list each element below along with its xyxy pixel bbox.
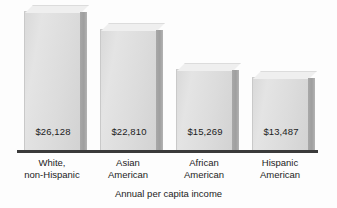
bar-value-label: $22,810 — [101, 126, 157, 137]
category-label-asian-american: Asian American — [85, 157, 171, 180]
category-label-line2: non-Hispanic — [9, 169, 95, 181]
bar-chart: $26,128 $22,810 $15,269 $13,487 — [0, 0, 337, 208]
category-label-african-american: African American — [161, 157, 247, 180]
bar-side-face — [156, 30, 163, 152]
x-axis-category-labels: White, non-Hispanic Asian American Afric… — [0, 157, 337, 185]
x-axis-title: Annual per capita income — [0, 188, 337, 199]
bar-front-face: $26,128 — [24, 11, 81, 152]
bar-value-label: $15,269 — [177, 126, 233, 137]
bar-front-face: $22,810 — [100, 29, 157, 152]
bar-side-face — [232, 70, 239, 152]
bar-side-face — [80, 12, 87, 152]
bar-front-face: $15,269 — [176, 69, 233, 152]
bar-front-face: $13,487 — [252, 77, 309, 152]
category-label-white-non-hispanic: White, non-Hispanic — [9, 157, 95, 180]
category-label-line2: American — [85, 169, 171, 181]
category-label-line1: White, — [9, 157, 95, 169]
bar-side-face — [308, 78, 315, 152]
category-label-line2: American — [161, 169, 247, 181]
bar-value-label: $13,487 — [253, 126, 309, 137]
category-label-line2: American — [237, 169, 323, 181]
category-label-line1: Hispanic — [237, 157, 323, 169]
category-label-line1: Asian — [85, 157, 171, 169]
plot-area: $26,128 $22,810 $15,269 $13,487 — [0, 0, 337, 153]
category-label-hispanic-american: Hispanic American — [237, 157, 323, 180]
category-label-line1: African — [161, 157, 247, 169]
x-axis-line — [17, 150, 318, 153]
bar-value-label: $26,128 — [25, 126, 81, 137]
